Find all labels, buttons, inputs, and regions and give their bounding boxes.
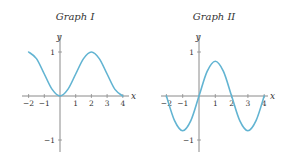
svg-text:−1: −1 (183, 136, 194, 145)
svg-text:2: 2 (89, 99, 94, 108)
svg-text:1: 1 (50, 48, 55, 57)
svg-text:1: 1 (73, 99, 78, 108)
svg-text:4: 4 (120, 99, 125, 108)
svg-text:−1: −1 (44, 136, 55, 145)
figure: Graph I −2 −1 1 2 3 4 x y 1 −1 (0, 0, 289, 163)
graph-1-y-label: y (55, 32, 62, 42)
svg-text:−1: −1 (177, 99, 188, 108)
graph-1-title: Graph I (56, 11, 96, 22)
graph-1-curve (29, 52, 123, 96)
graph-1-x-tick-labels: −2 −1 1 2 3 4 (23, 99, 125, 108)
graph-2-y-label: y (194, 32, 201, 42)
graph-2-title: Graph II (193, 11, 237, 22)
svg-text:1: 1 (189, 48, 194, 57)
svg-text:3: 3 (246, 99, 251, 108)
svg-text:3: 3 (105, 99, 110, 108)
svg-text:−1: −1 (39, 99, 50, 108)
graph-1-x-label: x (131, 91, 136, 101)
graph-2: Graph II −2 −1 1 2 3 4 x y 1 −1 (161, 11, 275, 152)
graph-2-x-label: x (270, 91, 275, 101)
svg-text:1: 1 (213, 99, 218, 108)
svg-text:−2: −2 (23, 99, 34, 108)
graph-1: Graph I −2 −1 1 2 3 4 x y 1 −1 (22, 11, 136, 152)
graph-2-x-tick-labels: −2 −1 1 2 3 4 (161, 99, 267, 108)
